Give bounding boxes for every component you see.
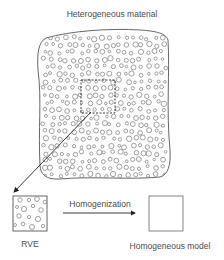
diagram-canvas [0, 0, 224, 260]
homogeneous-model-label: Homogeneous model [120, 241, 220, 251]
homogenization-label: Homogenization [62, 199, 138, 209]
particle-field [41, 35, 168, 178]
rve-label: RVE [10, 239, 50, 249]
homogeneous-model-box [149, 196, 183, 231]
